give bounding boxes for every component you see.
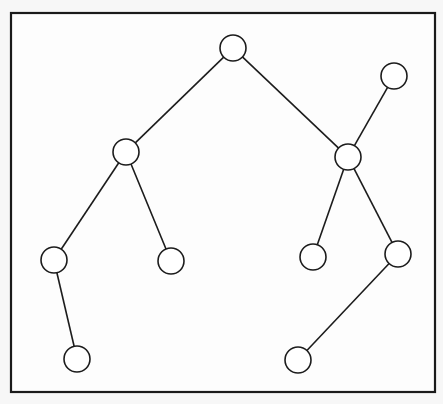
node-right-left-2 bbox=[300, 244, 326, 270]
node-right-top bbox=[381, 63, 407, 89]
node-root bbox=[220, 35, 246, 61]
node-left-left-2 bbox=[41, 247, 67, 273]
node-right-right-2 bbox=[385, 241, 411, 267]
node-right-right-3 bbox=[285, 347, 311, 373]
node-right-1 bbox=[335, 144, 361, 170]
tree-diagram bbox=[0, 0, 443, 404]
node-left-left-3 bbox=[64, 346, 90, 372]
node-left-1 bbox=[113, 139, 139, 165]
node-left-right-2 bbox=[158, 248, 184, 274]
